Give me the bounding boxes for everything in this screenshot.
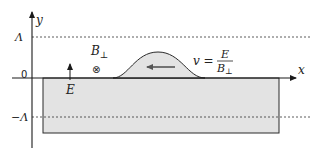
lower-bound-label: −Λ [11, 111, 28, 124]
velocity-lhs: v = [193, 54, 214, 68]
x-axis-label: x [298, 63, 305, 77]
electric-field-label: E [65, 83, 75, 97]
velocity-denominator-symbol: B [216, 62, 225, 75]
velocity-denominator: B⊥ [216, 62, 233, 76]
magnetic-field-label: B⊥ [90, 44, 108, 60]
material-region [43, 78, 279, 133]
diagram-canvas: y x 0 Λ −Λ E B⊥ ⊗ v = E B⊥ [0, 0, 317, 150]
magnetic-field-subscript: ⊥ [100, 50, 108, 60]
magnetic-field-symbol-text: B [90, 44, 100, 58]
y-axis-label: y [35, 13, 43, 27]
origin-label: 0 [21, 69, 27, 80]
upper-bound-label: Λ [14, 31, 23, 44]
into-page-icon: ⊗ [92, 64, 100, 75]
velocity-denominator-subscript: ⊥ [225, 67, 233, 76]
velocity-numerator: E [220, 48, 229, 61]
surface-bump [113, 52, 205, 78]
